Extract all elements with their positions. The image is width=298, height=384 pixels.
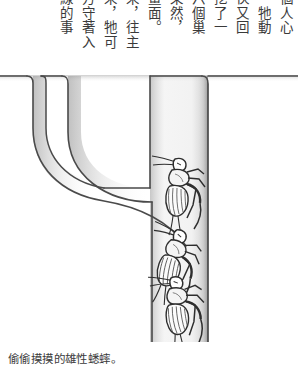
text-column: 六個巢 (188, 0, 206, 63)
vertical-body-text: 個人心 ，牠動 伙又回 挖了一 六個巢 果然， 畫面。 來，往主 來，牠可 方守… (0, 0, 298, 72)
text-column: 線的事 (56, 0, 74, 63)
burrow-illustration (0, 70, 298, 342)
text-column: 方守著入 (78, 0, 96, 63)
text-column: 來，往主 (122, 0, 140, 63)
text-column: 畫面。 (144, 0, 162, 63)
text-column: ，牠動 (254, 0, 272, 63)
text-column: 來，牠可 (100, 0, 118, 63)
text-column: 挖了一 (210, 0, 228, 63)
book-page: 個人心 ，牠動 伙又回 挖了一 六個巢 果然， 畫面。 來，往主 來，牠可 方守… (0, 0, 298, 384)
text-column: 個人心 (276, 0, 294, 63)
figure-caption: 偷偷摸摸的雄性蟋蟀。 (8, 350, 122, 366)
text-column: 果然， (166, 0, 184, 63)
text-column: 伙又回 (232, 0, 250, 63)
